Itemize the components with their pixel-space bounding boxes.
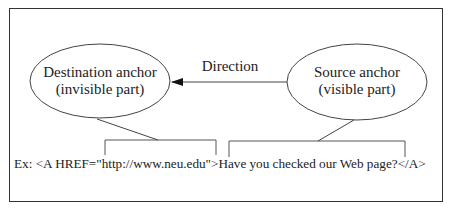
source-anchor-line2: (visible part) bbox=[287, 81, 427, 98]
example-prefix: Ex: bbox=[14, 156, 36, 171]
example-tag-open: <A HREF="http://www.neu.edu"> bbox=[36, 156, 219, 171]
source-bracket bbox=[229, 141, 405, 157]
example-link-text: Have you checked our Web page? bbox=[218, 156, 397, 171]
destination-bracket bbox=[105, 140, 216, 155]
example-html-code: Ex: <A HREF="http://www.neu.edu">Have yo… bbox=[14, 156, 444, 172]
diagram-canvas bbox=[0, 0, 456, 210]
destination-connector bbox=[97, 119, 158, 140]
example-tag-close: </A> bbox=[398, 156, 426, 171]
destination-anchor-label: Destination anchor (invisible part) bbox=[30, 64, 170, 98]
source-anchor-label: Source anchor (visible part) bbox=[287, 64, 427, 98]
source-anchor-line1: Source anchor bbox=[287, 64, 427, 81]
destination-anchor-line2: (invisible part) bbox=[30, 81, 170, 98]
destination-anchor-line1: Destination anchor bbox=[30, 64, 170, 81]
source-connector bbox=[318, 120, 354, 141]
direction-label: Direction bbox=[190, 58, 270, 75]
